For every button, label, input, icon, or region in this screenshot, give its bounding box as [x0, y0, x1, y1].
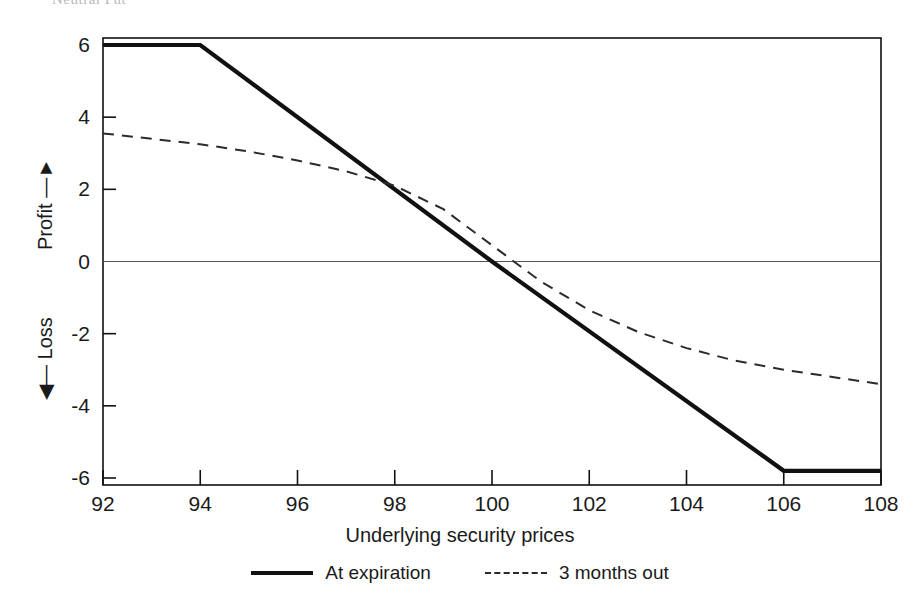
y-tick-label: 2	[52, 177, 90, 201]
chart-figure: Neutral Put 6420-2-4-6 92949698100102104…	[0, 0, 920, 616]
series-line-3-months-out	[103, 133, 881, 384]
x-tick-label: 96	[286, 492, 309, 516]
dashed-line-swatch-icon	[485, 572, 547, 574]
solid-line-swatch-icon	[251, 571, 313, 575]
y-tick-label: 6	[52, 33, 90, 57]
clipped-header-text: Neutral Put	[52, 0, 126, 8]
y-tick-label: -4	[52, 394, 90, 418]
x-tick-label: 94	[189, 492, 212, 516]
x-axis-title: Underlying security prices	[0, 524, 920, 547]
series-lines	[103, 45, 881, 471]
down-arrow-icon: ◀—	[35, 365, 55, 400]
legend-item-at-expiration: At expiration	[251, 562, 431, 584]
x-tick-label: 98	[383, 492, 406, 516]
series-line-at-expiration	[103, 45, 881, 471]
y-tick-label: 0	[52, 250, 90, 274]
x-tick-label: 104	[669, 492, 704, 516]
y-tick-label: 4	[52, 105, 90, 129]
y-axis-profit-label: Profit —►	[34, 158, 57, 250]
x-tick-label: 100	[474, 492, 509, 516]
x-tick-label: 108	[863, 492, 898, 516]
y-axis-loss-text: Loss	[34, 317, 56, 359]
x-tick-label: 102	[572, 492, 607, 516]
legend-label-at-expiration: At expiration	[325, 562, 431, 584]
y-tick-label: -6	[52, 466, 90, 490]
y-axis-loss-label: ◀— Loss	[34, 317, 57, 400]
y-axis-profit-text: Profit	[34, 203, 56, 250]
legend-label-three-months-out: 3 months out	[559, 562, 669, 584]
legend-item-three-months-out: 3 months out	[485, 562, 669, 584]
x-tick-label: 92	[91, 492, 114, 516]
x-tick-label: 106	[766, 492, 801, 516]
up-arrow-icon: —►	[35, 158, 55, 198]
x-tick-marks	[103, 470, 881, 485]
y-tick-label: -2	[52, 322, 90, 346]
chart-legend: At expiration 3 months out	[0, 562, 920, 584]
